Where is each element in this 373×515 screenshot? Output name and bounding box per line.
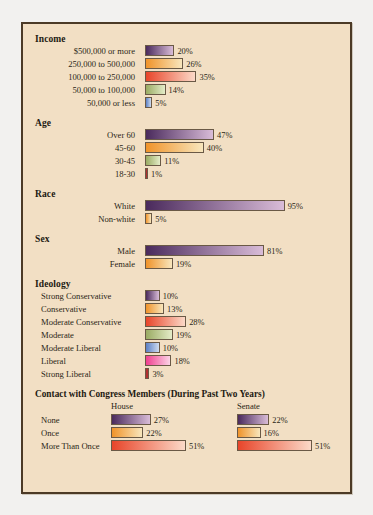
category-label: Strong Conservative — [41, 292, 111, 301]
bar-rows: Strong Conservative10%Conservative13%Mod… — [23, 290, 350, 381]
category-label: 18-30 — [23, 170, 135, 179]
bar — [145, 97, 152, 108]
section-ideology: IdeologyStrong Conservative10%Conservati… — [23, 279, 350, 381]
category-label: Strong Liberal — [41, 370, 91, 379]
bar-rows: $500,000 or more20%250,000 to 500,00026%… — [23, 45, 350, 110]
section-income: Income$500,000 or more20%250,000 to 500,… — [23, 34, 350, 110]
category-label: 45-60 — [23, 144, 135, 153]
section-heading: Contact with Congress Members (During Pa… — [35, 389, 350, 399]
bar-row: 18-301% — [23, 168, 350, 181]
bar-row: Strong Liberal3% — [23, 368, 350, 381]
section-age: AgeOver 6047%45-6040%30-4511%18-301% — [23, 118, 350, 181]
bar-row: Strong Conservative10% — [23, 290, 350, 303]
bar-row: 250,000 to 500,00026% — [23, 58, 350, 71]
category-label: More Than Once — [41, 442, 100, 451]
chart-panel: Income$500,000 or more20%250,000 to 500,… — [21, 22, 352, 494]
bar — [145, 303, 164, 314]
category-label: Moderate Conservative — [41, 318, 121, 327]
value-label: 14% — [169, 85, 184, 96]
bar — [145, 142, 204, 153]
bar-row: 45-6040% — [23, 142, 350, 155]
paired-bar-rows: None27%22%Once22%16%More Than Once51%51% — [23, 414, 350, 453]
value-label: 3% — [152, 369, 163, 380]
bar-rows: Over 6047%45-6040%30-4511%18-301% — [23, 129, 350, 181]
value-label: 35% — [199, 72, 214, 83]
bar — [111, 414, 151, 425]
bar-row: Moderate Conservative28% — [23, 316, 350, 329]
bar-rows: Male81%Female19% — [23, 245, 350, 271]
bar-row: Once22%16% — [23, 427, 350, 440]
bar — [145, 368, 149, 379]
series-heading: Senate — [237, 401, 260, 411]
bar-row: Conservative13% — [23, 303, 350, 316]
section-contact-with-congress: Contact with Congress Members (During Pa… — [23, 389, 350, 400]
value-label: 95% — [288, 201, 303, 212]
value-label: 19% — [176, 259, 191, 270]
bar — [145, 168, 148, 179]
bar-row: 30-4511% — [23, 155, 350, 168]
value-label: 11% — [164, 156, 179, 167]
bar — [111, 440, 186, 451]
value-label: 40% — [207, 143, 222, 154]
bar-row: Male81% — [23, 245, 350, 258]
bar-row: 100,000 to 250,00035% — [23, 71, 350, 84]
value-label: 10% — [163, 291, 178, 302]
section-heading: Income — [35, 34, 350, 44]
value-label: 51% — [189, 441, 204, 452]
value-label: 26% — [186, 59, 201, 70]
bar — [111, 427, 143, 438]
section-heading: Age — [35, 118, 350, 128]
category-label: None — [41, 416, 60, 425]
bar-rows: White95%Non-white5% — [23, 200, 350, 226]
section-race: RaceWhite95%Non-white5% — [23, 189, 350, 226]
bar-row: White95% — [23, 200, 350, 213]
value-label: 47% — [217, 130, 232, 141]
bar-row: Liberal18% — [23, 355, 350, 368]
bar-row: $500,000 or more20% — [23, 45, 350, 58]
category-label: 50,000 or less — [23, 99, 135, 108]
bar — [145, 329, 173, 340]
bar — [145, 45, 174, 56]
category-label: 30-45 — [23, 157, 135, 166]
bar — [145, 342, 160, 353]
value-label: 18% — [174, 356, 189, 367]
bar-row: Non-white5% — [23, 213, 350, 226]
bar — [145, 316, 186, 327]
value-label: 13% — [167, 304, 182, 315]
value-label: 28% — [189, 317, 204, 328]
value-label: 16% — [264, 428, 279, 439]
category-label: 100,000 to 250,000 — [23, 73, 135, 82]
bar — [145, 258, 173, 269]
category-label: Over 60 — [23, 131, 135, 140]
value-label: 19% — [176, 330, 191, 341]
category-label: Female — [23, 260, 135, 269]
value-label: 20% — [177, 46, 192, 57]
bar — [237, 414, 269, 425]
bar — [145, 355, 171, 366]
section-heading: Sex — [35, 234, 350, 244]
value-label: 5% — [155, 98, 166, 109]
value-label: 10% — [163, 343, 178, 354]
category-label: 50,000 to 100,000 — [23, 86, 135, 95]
series-heading: House — [111, 401, 133, 411]
category-label: Non-white — [23, 215, 135, 224]
bar — [145, 213, 152, 224]
bar-row: None27%22% — [23, 414, 350, 427]
bar — [145, 71, 196, 82]
bar-row: Over 6047% — [23, 129, 350, 142]
bar — [145, 245, 264, 256]
category-label: Moderate Liberal — [41, 344, 101, 353]
value-label: 22% — [146, 428, 161, 439]
bar-row: Moderate Liberal10% — [23, 342, 350, 355]
section-heading: Race — [35, 189, 350, 199]
category-label: 250,000 to 500,000 — [23, 60, 135, 69]
bar-row: 50,000 to 100,00014% — [23, 84, 350, 97]
value-label: 81% — [267, 246, 282, 257]
bar-row: Female19% — [23, 258, 350, 271]
bar — [145, 58, 183, 69]
category-label: Moderate — [41, 331, 74, 340]
bar-row: 50,000 or less5% — [23, 97, 350, 110]
bar — [145, 200, 285, 211]
category-label: Male — [23, 247, 135, 256]
bar — [145, 155, 161, 166]
